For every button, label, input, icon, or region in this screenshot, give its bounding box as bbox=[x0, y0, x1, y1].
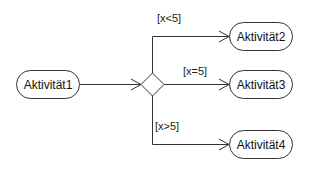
activity-node-2[interactable]: Aktivität2 bbox=[229, 22, 293, 51]
guard-label-x-gt-5: [x>5] bbox=[155, 120, 179, 132]
activity-label-1: Aktivität1 bbox=[24, 78, 73, 92]
activity-node-4[interactable]: Aktivität4 bbox=[229, 130, 293, 159]
guard-label-x-eq-5: [x=5] bbox=[183, 65, 207, 77]
decision-diamond[interactable] bbox=[141, 73, 164, 96]
activity-label-3: Aktivität3 bbox=[237, 78, 286, 92]
activity-node-3[interactable]: Aktivität3 bbox=[229, 70, 293, 99]
guard-label-x-lt-5: [x<5] bbox=[157, 12, 181, 24]
activity-label-2: Aktivität2 bbox=[237, 30, 286, 44]
activity-node-1[interactable]: Aktivität1 bbox=[16, 70, 80, 99]
activity-label-4: Aktivität4 bbox=[237, 138, 286, 152]
